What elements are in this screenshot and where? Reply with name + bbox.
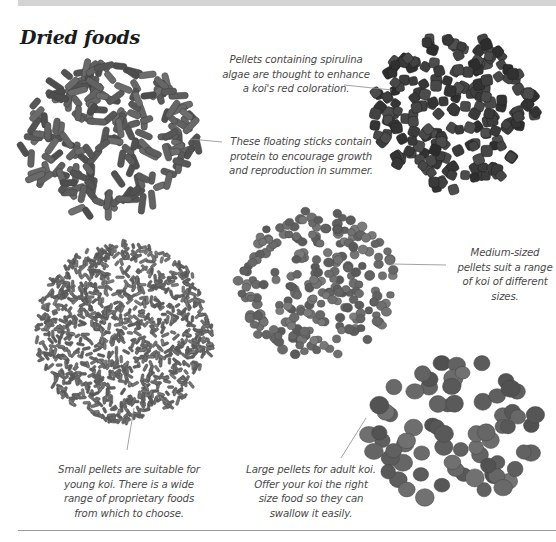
medium-pellet (355, 290, 364, 298)
small-pellet (124, 265, 131, 273)
caption-spirulina-pellets: Pellets containing spirulina algae are t… (222, 53, 370, 97)
large-pellet (433, 356, 450, 371)
small-pellet (106, 387, 109, 395)
large-pellet (434, 425, 453, 442)
small-pellet (148, 371, 153, 377)
small-pellet (205, 350, 213, 358)
medium-pellet (287, 322, 296, 329)
small-pellet (35, 335, 39, 344)
medium-pellet (328, 295, 337, 304)
medium-pellet (338, 327, 346, 335)
medium-pellet (333, 225, 342, 233)
stick-pellet (60, 180, 77, 186)
medium-pellet (314, 216, 323, 224)
medium-pellet (358, 262, 366, 270)
large-pellet (455, 366, 470, 379)
medium-pellet (385, 255, 395, 265)
medium-pellet (321, 224, 331, 233)
medium-pellet (309, 295, 317, 302)
small-pellet (84, 288, 87, 295)
spirulina-pellet (429, 177, 440, 188)
small-pellet (183, 369, 188, 375)
large-pellet (446, 395, 464, 412)
spirulina-pellet (410, 101, 422, 113)
small-pellet (108, 359, 111, 367)
medium-pellet (363, 335, 372, 343)
small-pellet (139, 258, 148, 264)
small-pellet (163, 379, 171, 383)
medium-pellet (387, 292, 395, 299)
spirulina-pellet (407, 136, 417, 146)
medium-pellet (370, 298, 378, 306)
small-pellet (123, 321, 129, 325)
spirulina-pellet (422, 38, 432, 48)
small-pellet (104, 255, 107, 262)
small-pellet (205, 315, 208, 323)
small-pellet (67, 350, 71, 357)
small-pellet (53, 372, 59, 378)
large-pellet (406, 384, 424, 399)
small-pellet (91, 320, 94, 327)
medium-pellet (324, 258, 334, 267)
small-pellet (80, 372, 87, 375)
medium-pellet (372, 317, 382, 326)
spirulina-pellet (460, 170, 469, 179)
small-pellet (107, 323, 111, 331)
medium-pellet (351, 268, 361, 277)
spirulina-pellet (369, 107, 382, 120)
stick-pellet (148, 190, 156, 210)
small-pellet (56, 364, 62, 367)
stick-pellet (112, 62, 127, 70)
large-pellet (481, 458, 496, 473)
medium-pellet (335, 313, 345, 322)
medium-pellet (238, 290, 246, 297)
medium-pellet (334, 288, 343, 297)
large-pellet (370, 396, 389, 414)
medium-pellet (263, 226, 271, 233)
medium-pellet (375, 253, 383, 261)
medium-pellet (287, 283, 296, 291)
small-pellet (93, 269, 100, 272)
medium-pellet (333, 350, 342, 358)
stick-pellet (44, 122, 51, 140)
small-pellet (116, 276, 125, 279)
caption-medium-pellets: Medium-sized pellets suit a range of koi… (457, 246, 553, 304)
medium-pellet (310, 336, 318, 344)
small-pellet (133, 365, 140, 369)
medium-pellet (346, 216, 356, 225)
small-pellet (72, 393, 80, 396)
small-pellet (81, 333, 90, 336)
small-pellet (79, 337, 83, 343)
large-pellet (465, 469, 484, 487)
spirulina-pellet (451, 144, 465, 158)
medium-pellet (347, 229, 355, 236)
medium-pellet (381, 307, 391, 316)
medium-pellet (343, 303, 352, 312)
large-pellet (429, 396, 446, 413)
small-pellet (142, 364, 148, 372)
small-pellet (188, 323, 196, 328)
large-pellet (413, 468, 428, 482)
small-pellet (172, 333, 180, 341)
small-pellet (122, 325, 128, 330)
large-pellet (474, 356, 490, 371)
medium-pellet (278, 345, 288, 354)
small-pellet (47, 283, 54, 286)
small-pellet (165, 254, 171, 258)
large-pellet (398, 433, 416, 449)
medium-pellet (314, 268, 323, 277)
spirulina-pellet (507, 68, 519, 80)
large-pellet (477, 424, 495, 441)
stick-pellet (87, 118, 108, 126)
caption-small-pellets: Small pellets are suitable for young koi… (54, 463, 204, 521)
stick-pellet (103, 70, 117, 85)
medium-pellet (388, 266, 398, 275)
small-pellet (102, 407, 107, 414)
large-pellet (507, 461, 523, 476)
small-pellet (117, 369, 120, 376)
small-pellet (161, 313, 167, 316)
medium-pellet (286, 218, 294, 226)
large-pellet (415, 489, 434, 507)
medium-pellet (290, 313, 300, 322)
spirulina-pellet (522, 87, 535, 100)
